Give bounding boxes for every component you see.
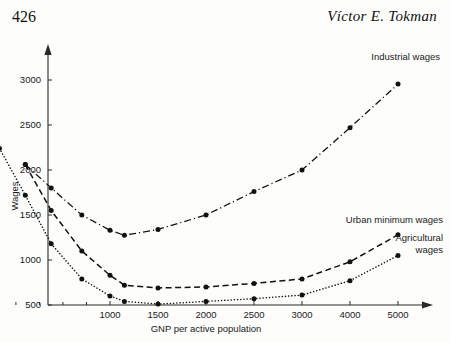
y-axis-title: Wages: [9, 181, 20, 210]
chart-canvas: 5001000150020002500300010001500200025003…: [0, 0, 451, 343]
data-point: [204, 299, 209, 304]
data-point: [252, 189, 257, 194]
data-point: [348, 125, 353, 130]
x-axis-arrowhead: [422, 301, 433, 308]
y-tick-label: 1000: [20, 254, 41, 265]
x-axis-title: GNP per active population: [151, 323, 262, 334]
data-point: [156, 302, 161, 307]
x-tick-label: 1500: [147, 309, 168, 320]
data-point: [300, 168, 305, 173]
data-point: [348, 259, 353, 264]
y-tick-label: 2500: [20, 119, 41, 130]
series-label-agricultural-wages-line2: wages: [415, 244, 444, 255]
data-point: [79, 276, 84, 281]
y-axis-arrowhead: [44, 44, 51, 55]
data-point: [252, 281, 257, 286]
data-point: [108, 294, 113, 299]
series-layer: [0, 82, 401, 307]
x-tick-label: 2500: [243, 309, 264, 320]
series-label-urban-minimum-wages: Urban minimum wages: [346, 214, 443, 225]
series-line-agricultural-wages: [0, 148, 398, 304]
series-label-industrial-wages: Industrial wages: [371, 51, 440, 62]
x-tick-label: 5000: [387, 309, 408, 320]
data-point: [396, 82, 401, 87]
data-point: [49, 208, 54, 213]
x-tick-label: 1000: [99, 309, 120, 320]
x-tick-label: 2000: [195, 309, 216, 320]
axes-layer: 5001000150020002500300010001500200025003…: [9, 44, 433, 334]
data-point: [122, 299, 127, 304]
data-point: [122, 283, 127, 288]
chart-figure: 5001000150020002500300010001500200025003…: [0, 0, 451, 343]
data-point: [23, 193, 28, 198]
data-point: [396, 253, 401, 258]
data-point: [348, 278, 353, 283]
data-point: [108, 228, 113, 233]
data-point: [204, 213, 209, 218]
data-point: [252, 296, 257, 301]
data-point: [79, 213, 84, 218]
data-point: [108, 273, 113, 278]
y-tick-label: 3000: [20, 74, 41, 85]
series-labels-layer: Industrial wagesUrban minimum wagesAgric…: [346, 51, 443, 255]
series-label-agricultural-wages: Agricultural: [395, 232, 443, 243]
y-tick-label: 500: [25, 299, 41, 310]
data-point: [23, 162, 28, 167]
x-tick-label: 3000: [291, 309, 312, 320]
series-line-urban-minimum-wages: [25, 165, 398, 288]
data-point: [300, 276, 305, 281]
data-point: [204, 285, 209, 290]
data-point: [79, 249, 84, 254]
data-point: [0, 146, 2, 151]
x-tick-label: 4000: [339, 309, 360, 320]
data-point: [49, 186, 54, 191]
data-point: [122, 233, 127, 238]
data-point: [300, 293, 305, 298]
data-point: [49, 241, 54, 246]
data-point: [156, 227, 161, 232]
data-point: [156, 285, 161, 290]
